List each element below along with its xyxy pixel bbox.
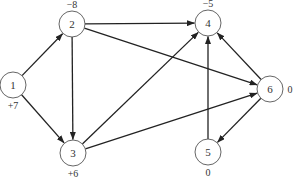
edge-3-to-4 xyxy=(82,32,198,144)
edge-3-to-6 xyxy=(85,93,257,149)
node-label: 4 xyxy=(205,17,211,29)
node-4: 4−5 xyxy=(195,0,221,36)
network-graph: 1+72−83+64−55060 xyxy=(0,0,294,182)
edges xyxy=(22,23,261,149)
node-5: 50 xyxy=(195,139,221,178)
node-label: 1 xyxy=(10,79,16,91)
edge-2-to-3 xyxy=(72,37,73,140)
edge-6-to-5 xyxy=(217,98,260,142)
node-supply-value: −8 xyxy=(67,0,78,10)
nodes: 1+72−83+64−55060 xyxy=(0,0,293,179)
edge-2-to-4 xyxy=(85,23,195,24)
node-1: 1+7 xyxy=(0,72,26,111)
node-6: 60 xyxy=(257,76,293,102)
node-label: 2 xyxy=(69,18,75,30)
node-supply-value: 0 xyxy=(288,84,293,95)
edge-1-to-3 xyxy=(22,95,64,143)
edge-2-to-6 xyxy=(84,28,257,85)
node-supply-value: 0 xyxy=(206,167,211,178)
node-3: 3+6 xyxy=(60,140,86,179)
node-2: 2−8 xyxy=(59,0,85,37)
node-supply-value: +6 xyxy=(68,168,79,179)
node-label: 6 xyxy=(267,83,273,95)
edge-1-to-2 xyxy=(22,34,63,76)
node-label: 3 xyxy=(70,147,76,159)
node-supply-value: +7 xyxy=(8,100,19,111)
node-label: 5 xyxy=(205,146,211,158)
edge-6-to-4 xyxy=(217,33,261,80)
node-supply-value: −5 xyxy=(203,0,214,9)
